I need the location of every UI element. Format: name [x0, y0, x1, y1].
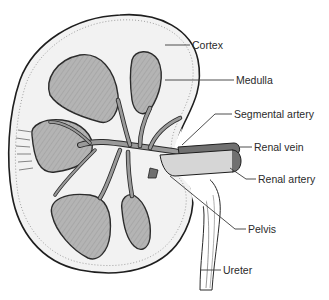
label-pelvis: Pelvis: [248, 223, 276, 235]
label-segmental-artery: Segmental artery: [234, 108, 315, 120]
label-cortex: Cortex: [192, 39, 224, 51]
label-renal-artery: Renal artery: [258, 173, 316, 185]
label-renal-vein: Renal vein: [254, 141, 304, 153]
label-medulla: Medulla: [236, 74, 273, 86]
label-ureter: Ureter: [223, 264, 253, 276]
kidney-diagram: Cortex Medulla Segmental artery Renal ve…: [0, 0, 329, 300]
